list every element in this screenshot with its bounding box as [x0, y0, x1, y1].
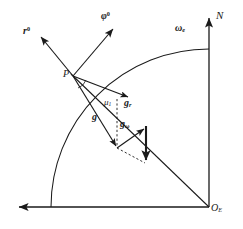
phi-unit-vector	[73, 29, 113, 76]
radius-line-p-to-origin	[71, 74, 209, 207]
g-radial-label: gr	[124, 98, 131, 108]
g-total-label: g	[92, 112, 97, 122]
earth-surface-arc	[51, 49, 209, 207]
origin-label: OE	[211, 203, 222, 213]
point-p-label: P	[63, 69, 69, 79]
r-unit-vector-label: r0	[23, 26, 30, 36]
dashed-diagonal-guide	[117, 148, 145, 163]
g-omega-label: gω	[120, 119, 129, 129]
diagram-svg	[0, 0, 243, 229]
earth-rate-label: ωe	[175, 23, 185, 33]
phi-unit-vector-label: φ0	[101, 11, 110, 21]
north-label: N	[216, 10, 223, 21]
angle-mu1-label: μ1	[104, 98, 111, 108]
figure-canvas: r0 φ0 ωe N P OE μ1 g gr gω	[0, 0, 243, 229]
